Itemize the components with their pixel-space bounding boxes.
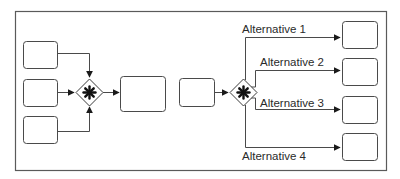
split-gateway[interactable] [230, 79, 257, 106]
input-task-3[interactable] [24, 117, 58, 144]
alternative-1-label: Alternative 1 [242, 23, 306, 35]
flow-alternative-4 [246, 105, 341, 148]
output-task[interactable] [121, 77, 166, 112]
left-section [24, 42, 166, 144]
input-task-2[interactable] [24, 80, 58, 107]
flow-alternative-2 [251, 71, 340, 88]
flow-input-1 [58, 54, 90, 78]
alternative-2-label: Alternative 2 [260, 56, 324, 68]
split-input-task[interactable] [180, 79, 215, 107]
right-section: Alternative 1 Alternative 2 Alternative … [180, 22, 378, 163]
alternative-3-label: Alternative 3 [260, 97, 324, 109]
asterisk-icon [238, 87, 250, 99]
input-task-1[interactable] [24, 42, 58, 69]
alternative-1-task[interactable] [343, 22, 378, 49]
flow-input-3 [58, 107, 90, 132]
alternative-4-label: Alternative 4 [242, 150, 307, 162]
asterisk-icon [84, 87, 96, 99]
diagram-canvas: Alternative 1 Alternative 2 Alternative … [0, 0, 400, 179]
alternative-2-task[interactable] [343, 59, 378, 86]
alternative-3-task[interactable] [343, 97, 378, 124]
merge-gateway[interactable] [76, 79, 103, 106]
alternative-4-task[interactable] [343, 134, 378, 161]
